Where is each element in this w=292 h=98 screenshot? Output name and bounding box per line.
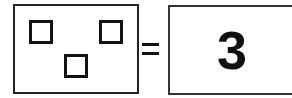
- square-shape-2: [99, 20, 123, 44]
- equals-bar-top: [142, 43, 159, 46]
- answer-number: 3: [170, 7, 292, 93]
- equals-bar-bottom: [142, 52, 159, 55]
- answer-panel: 3: [168, 5, 292, 95]
- shapes-panel: [13, 4, 139, 94]
- square-shape-1: [29, 20, 53, 44]
- square-shape-3: [64, 54, 88, 78]
